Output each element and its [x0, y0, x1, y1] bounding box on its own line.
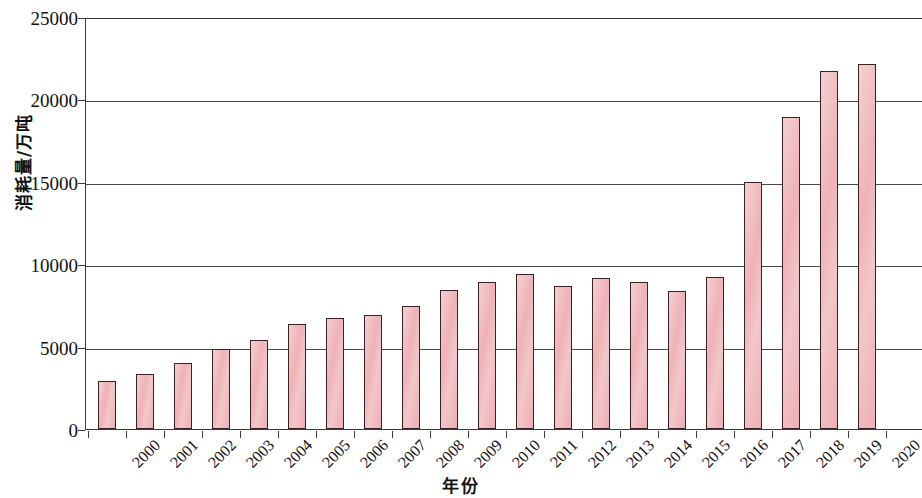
bar-2007 — [364, 315, 382, 429]
y-tick-mark — [78, 183, 85, 184]
y-tick-mark — [78, 18, 85, 19]
x-tick-mark — [848, 431, 849, 438]
y-tick-label: 25000 — [0, 9, 78, 28]
x-tick-label: 2007 — [395, 437, 429, 471]
x-tick-mark — [544, 431, 545, 438]
x-axis-title: 年份 — [0, 472, 922, 497]
x-tick-mark — [658, 431, 659, 438]
x-tick-label: 2019 — [851, 437, 885, 471]
x-tick-label: 2011 — [547, 437, 581, 471]
y-tick-mark — [78, 430, 85, 431]
x-tick-mark — [772, 431, 773, 438]
x-tick-label: 2016 — [737, 437, 771, 471]
bar-2006 — [326, 318, 344, 429]
x-tick-label: 2001 — [167, 437, 201, 471]
bar-2005 — [288, 324, 306, 429]
x-tick-mark — [430, 431, 431, 438]
bar-2003 — [212, 349, 230, 429]
bar-2013 — [592, 278, 610, 429]
x-tick-mark — [126, 431, 127, 438]
x-tick-label: 2012 — [585, 437, 619, 471]
bar-2002 — [174, 363, 192, 429]
x-tick-label: 2003 — [243, 437, 277, 471]
x-tick-mark — [734, 431, 735, 438]
x-tick-label: 2017 — [775, 437, 809, 471]
x-tick-label: 2018 — [813, 437, 847, 471]
y-tick-label: 10000 — [0, 256, 78, 275]
x-tick-label: 2015 — [699, 437, 733, 471]
x-tick-label: 2000 — [129, 437, 163, 471]
x-tick-mark — [506, 431, 507, 438]
x-tick-mark — [696, 431, 697, 438]
bar-2016 — [706, 277, 724, 429]
bar-2018 — [782, 117, 800, 429]
x-tick-label: 2020 — [889, 437, 922, 471]
y-tick-label: 15000 — [0, 173, 78, 192]
x-tick-label: 2014 — [661, 437, 695, 471]
bar-2010 — [478, 282, 496, 429]
bar-2011 — [516, 274, 534, 429]
x-tick-mark — [582, 431, 583, 438]
x-tick-mark — [468, 431, 469, 438]
bar-2019 — [820, 71, 838, 429]
bar-chart: 消耗量/万吨 0500010000150002000025000 2000200… — [0, 0, 922, 498]
x-tick-mark — [354, 431, 355, 438]
x-tick-mark — [620, 431, 621, 438]
bar-2020 — [858, 64, 876, 429]
bar-2017 — [744, 182, 762, 429]
x-tick-label: 2005 — [319, 437, 353, 471]
bar-2009 — [440, 290, 458, 429]
x-tick-label: 2002 — [205, 437, 239, 471]
x-tick-label: 2006 — [357, 437, 391, 471]
y-tick-label: 0 — [0, 421, 78, 440]
x-tick-mark — [240, 431, 241, 438]
x-tick-mark — [278, 431, 279, 438]
y-tick-label: 20000 — [0, 91, 78, 110]
bar-2001 — [136, 374, 154, 429]
y-tick-mark — [78, 265, 85, 266]
x-tick-mark — [810, 431, 811, 438]
y-tick-label: 5000 — [0, 338, 78, 357]
x-tick-label: 2004 — [281, 437, 315, 471]
x-tick-mark — [886, 431, 887, 438]
x-tick-mark — [316, 431, 317, 438]
x-tick-mark — [164, 431, 165, 438]
x-tick-mark — [88, 431, 89, 438]
x-tick-label: 2009 — [471, 437, 505, 471]
bar-2000 — [98, 381, 116, 429]
y-tick-mark — [78, 348, 85, 349]
bar-2012 — [554, 286, 572, 429]
x-tick-mark — [392, 431, 393, 438]
bar-2014 — [630, 282, 648, 429]
gridline-20000 — [86, 101, 922, 102]
bar-2008 — [402, 306, 420, 429]
x-tick-label: 2008 — [433, 437, 467, 471]
plot-area — [85, 18, 922, 430]
y-tick-mark — [78, 100, 85, 101]
x-tick-mark — [202, 431, 203, 438]
bar-2015 — [668, 291, 686, 429]
bar-2004 — [250, 340, 268, 429]
x-tick-label: 2010 — [509, 437, 543, 471]
x-tick-label: 2013 — [623, 437, 657, 471]
